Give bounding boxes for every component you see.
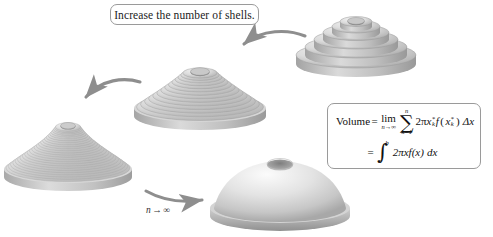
limit-operator: lim n→∞ bbox=[381, 113, 396, 131]
arrow-left-to-limit bbox=[146, 191, 202, 201]
formula-callout: Volume = lim n→∞ n ∑ k=1 2πx * k f(x * k… bbox=[327, 103, 481, 169]
summand-index-star-1: * k bbox=[432, 116, 435, 127]
integral-lower-limit: a bbox=[378, 158, 382, 165]
integral-operator: b ∫ a bbox=[377, 140, 389, 165]
caption-callout: Increase the number of shells. bbox=[110, 4, 259, 25]
limit-label-arrow: → bbox=[151, 205, 164, 215]
solid-medium-shells bbox=[132, 56, 268, 132]
summand-index-1: k bbox=[432, 121, 435, 128]
summand-paren-close: ) bbox=[455, 116, 462, 127]
summand-coefficient: 2π bbox=[416, 116, 427, 127]
limit-label-infinity: ∞ bbox=[163, 205, 170, 215]
shell-method-figure: n→∞ Increase the number of shells. Volum… bbox=[0, 0, 493, 237]
summand-delta-x: Δx bbox=[463, 116, 474, 127]
limit-operator-subscript: n→∞ bbox=[381, 124, 395, 131]
integrand-expression: 2πxf(x) bbox=[393, 147, 424, 158]
summand-index-2: k bbox=[451, 121, 454, 128]
summation-operator: n ∑ k=1 bbox=[400, 108, 414, 135]
formula-equals-2: = bbox=[366, 147, 375, 158]
summand-variable-2: x bbox=[445, 116, 450, 127]
summation-lower-limit: k=1 bbox=[401, 129, 412, 136]
integrand-differential: dx bbox=[427, 147, 437, 158]
solid-fine-shells bbox=[2, 113, 134, 195]
formula-line-integral: = b ∫ a 2πxf(x) dx bbox=[366, 140, 474, 165]
formula-volume-label: Volume bbox=[336, 116, 370, 127]
formula-line-sum: Volume = lim n→∞ n ∑ k=1 2πx * k f(x * k… bbox=[336, 108, 474, 135]
caption-text: Increase the number of shells. bbox=[114, 9, 255, 21]
summand-variable-1: x bbox=[427, 116, 432, 127]
arrow-limit-label: n→∞ bbox=[146, 205, 170, 215]
summand-index-star-2: * k bbox=[451, 116, 454, 127]
solid-coarse-shells bbox=[294, 7, 418, 79]
formula-equals-1: = bbox=[370, 116, 379, 127]
